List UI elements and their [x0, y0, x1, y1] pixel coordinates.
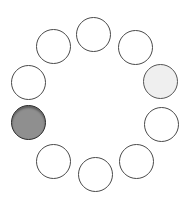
spinner-dot-icon — [78, 157, 113, 192]
spinner-dot-icon — [36, 144, 71, 179]
spinner-dot-icon — [143, 64, 178, 99]
loading-spinner — [0, 0, 191, 203]
spinner-dot-icon — [36, 29, 71, 64]
spinner-dot-icon — [11, 105, 46, 140]
spinner-dot-icon — [144, 107, 179, 142]
spinner-dot-icon — [11, 65, 46, 100]
spinner-dot-icon — [118, 30, 153, 65]
spinner-dot-icon — [76, 17, 111, 52]
spinner-dot-icon — [119, 144, 154, 179]
